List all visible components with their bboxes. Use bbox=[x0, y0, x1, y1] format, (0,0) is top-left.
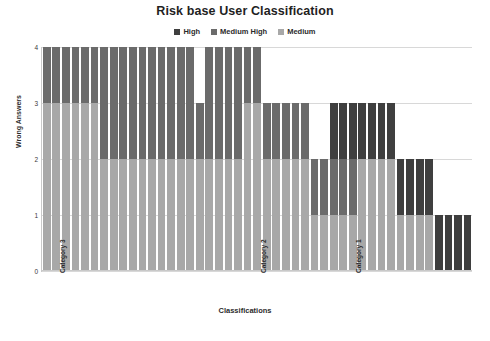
bar-column[interactable] bbox=[434, 47, 444, 271]
x-axis-line bbox=[42, 270, 472, 271]
bar-segment-medium bbox=[215, 159, 223, 271]
y-tick-label: 1 bbox=[2, 212, 38, 219]
bar-column[interactable] bbox=[176, 47, 186, 271]
bar-column[interactable] bbox=[300, 47, 310, 271]
bar-segment-medium-high bbox=[311, 159, 319, 215]
bar-segment-medium-high bbox=[81, 47, 89, 103]
bar-segment-medium-high bbox=[196, 103, 204, 159]
bar-segment-medium bbox=[81, 103, 89, 271]
bar-segment-medium bbox=[91, 103, 99, 271]
bar-segment-high bbox=[368, 103, 376, 159]
bar-segment-medium-high bbox=[43, 47, 51, 103]
legend-item-label: Medium High bbox=[220, 27, 267, 36]
x-tick-label: Category 3 bbox=[59, 239, 66, 273]
bar-column[interactable] bbox=[329, 47, 339, 271]
bar-column[interactable] bbox=[205, 47, 215, 271]
bar-column[interactable] bbox=[71, 47, 81, 271]
bar-column[interactable] bbox=[195, 47, 205, 271]
bar-segment-medium bbox=[158, 159, 166, 271]
bar-segment-medium bbox=[301, 159, 309, 271]
bar-column[interactable] bbox=[463, 47, 473, 271]
bar-column[interactable] bbox=[109, 47, 119, 271]
bar-segment-medium bbox=[244, 103, 252, 271]
bar-column[interactable] bbox=[128, 47, 138, 271]
bar-segment-high bbox=[397, 159, 405, 215]
bar-segment-high bbox=[445, 215, 453, 271]
bar-segment-medium bbox=[378, 159, 386, 271]
x-axis-title: Classifications bbox=[0, 306, 490, 315]
bar-column[interactable] bbox=[396, 47, 406, 271]
bar-column[interactable] bbox=[80, 47, 90, 271]
bar-column[interactable] bbox=[405, 47, 415, 271]
bar-column[interactable] bbox=[262, 47, 272, 271]
plot-area bbox=[42, 47, 472, 271]
bar-column[interactable] bbox=[415, 47, 425, 271]
gridline bbox=[42, 271, 472, 272]
bar-segment-medium-high bbox=[234, 47, 242, 159]
legend-swatch-icon bbox=[278, 29, 284, 35]
bar-column[interactable] bbox=[157, 47, 167, 271]
bar-segment-high bbox=[464, 215, 472, 271]
bar-column[interactable] bbox=[348, 47, 358, 271]
bar-segment-high bbox=[339, 103, 347, 159]
bar-segment-high bbox=[358, 103, 366, 159]
bar-column[interactable] bbox=[119, 47, 129, 271]
bar-column[interactable] bbox=[358, 47, 368, 271]
bar-column[interactable] bbox=[138, 47, 148, 271]
bar-segment-medium bbox=[272, 159, 280, 271]
bar-segment-medium-high bbox=[148, 47, 156, 159]
bar-segment-medium-high bbox=[272, 103, 280, 159]
legend-item-high[interactable]: High bbox=[174, 27, 200, 36]
bar-column[interactable] bbox=[42, 47, 52, 271]
bar-segment-medium-high bbox=[292, 103, 300, 159]
bar-segment-medium bbox=[406, 215, 414, 271]
legend-item-medium-high[interactable]: Medium High bbox=[211, 27, 267, 36]
bar-segment-medium-high bbox=[253, 47, 261, 103]
bar-column[interactable] bbox=[453, 47, 463, 271]
bar-column[interactable] bbox=[252, 47, 262, 271]
bar-column[interactable] bbox=[90, 47, 100, 271]
legend-item-medium[interactable]: Medium bbox=[278, 27, 315, 36]
bar-segment-medium bbox=[339, 215, 347, 271]
x-axis-ticks: Category 3Category 2Category 1 bbox=[42, 273, 472, 333]
legend-swatch-icon bbox=[174, 29, 180, 35]
y-axis-title: Wrong Answers bbox=[15, 82, 22, 162]
bar-segment-medium bbox=[119, 159, 127, 271]
bar-column[interactable] bbox=[444, 47, 454, 271]
bar-segment-medium-high bbox=[301, 103, 309, 159]
bar-column[interactable] bbox=[52, 47, 62, 271]
bar-segment-medium bbox=[330, 215, 338, 271]
bar-column[interactable] bbox=[224, 47, 234, 271]
bar-segment-medium bbox=[43, 103, 51, 271]
bar-column[interactable] bbox=[319, 47, 329, 271]
bar-column[interactable] bbox=[425, 47, 435, 271]
bar-segment-medium-high bbox=[282, 103, 290, 159]
bar-column[interactable] bbox=[233, 47, 243, 271]
bar-column[interactable] bbox=[272, 47, 282, 271]
bar-segment-medium-high bbox=[339, 159, 347, 215]
bar-segment-high bbox=[416, 159, 424, 215]
bar-column[interactable] bbox=[291, 47, 301, 271]
legend-swatch-icon bbox=[211, 29, 217, 35]
bar-column[interactable] bbox=[243, 47, 253, 271]
bar-column[interactable] bbox=[367, 47, 377, 271]
bar-segment-medium bbox=[234, 159, 242, 271]
bar-segment-medium bbox=[320, 215, 328, 271]
bar-column[interactable] bbox=[377, 47, 387, 271]
bar-column[interactable] bbox=[147, 47, 157, 271]
bar-segment-high bbox=[425, 159, 433, 215]
bar-column[interactable] bbox=[61, 47, 71, 271]
bar-segment-medium bbox=[186, 159, 194, 271]
bar-column[interactable] bbox=[99, 47, 109, 271]
bar-column[interactable] bbox=[310, 47, 320, 271]
legend-item-label: High bbox=[183, 27, 200, 36]
bar-segment-medium-high bbox=[129, 47, 137, 159]
bar-column[interactable] bbox=[338, 47, 348, 271]
bar-column[interactable] bbox=[386, 47, 396, 271]
bar-segment-medium bbox=[205, 159, 213, 271]
bar-column[interactable] bbox=[185, 47, 195, 271]
bar-column[interactable] bbox=[214, 47, 224, 271]
bar-segment-medium-high bbox=[215, 47, 223, 159]
bar-column[interactable] bbox=[166, 47, 176, 271]
bar-column[interactable] bbox=[281, 47, 291, 271]
